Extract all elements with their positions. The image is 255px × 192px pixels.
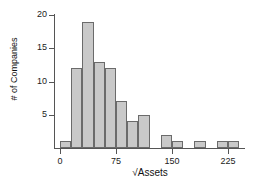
x-axis-tick-label: 150: [157, 156, 187, 166]
x-axis-line: [54, 148, 245, 149]
x-axis-tick-label: 225: [213, 156, 243, 166]
histogram-bar: [217, 141, 228, 148]
histogram-bar: [161, 135, 172, 148]
histogram-bar: [60, 141, 71, 148]
x-axis-tick: [228, 149, 229, 154]
y-axis-tick-label-text: 10: [25, 77, 47, 86]
y-axis-tick-label: 20: [22, 10, 47, 19]
x-axis-tick-label: 0: [45, 156, 75, 166]
histogram-bar: [228, 141, 239, 148]
y-axis-tick-label: 10: [22, 77, 47, 86]
y-axis-tick-label: 5: [22, 110, 47, 119]
x-axis-tick: [172, 149, 173, 154]
x-axis-tick: [60, 149, 61, 154]
plot-area: # of Companies √Assets 5101520 075150225: [0, 0, 255, 192]
histogram-bar: [194, 141, 205, 148]
y-axis-tick: [49, 82, 55, 83]
y-axis-tick-label: 15: [22, 43, 47, 52]
histogram-bar: [127, 121, 138, 148]
histogram-bar: [82, 22, 93, 148]
y-axis-tick: [49, 48, 55, 49]
y-axis-tick-label-text: 20: [25, 10, 47, 19]
x-axis-title: √Assets: [80, 167, 220, 178]
histogram-figure: # of Companies √Assets 5101520 075150225: [0, 0, 255, 192]
y-axis-title: # of Companies: [9, 21, 19, 117]
x-axis-tick-label: 75: [101, 156, 131, 166]
histogram-bar: [71, 68, 82, 148]
y-axis-tick-label-text: 5: [25, 110, 47, 119]
histogram-bar: [105, 68, 116, 148]
histogram-bar: [94, 62, 105, 148]
histogram-bar: [116, 101, 127, 148]
histogram-bar: [138, 115, 149, 148]
histogram-bar: [172, 141, 183, 148]
x-axis-tick: [116, 149, 117, 154]
y-axis-tick: [49, 115, 55, 116]
y-axis-tick: [49, 15, 55, 16]
y-axis-tick-label-text: 15: [25, 43, 47, 52]
